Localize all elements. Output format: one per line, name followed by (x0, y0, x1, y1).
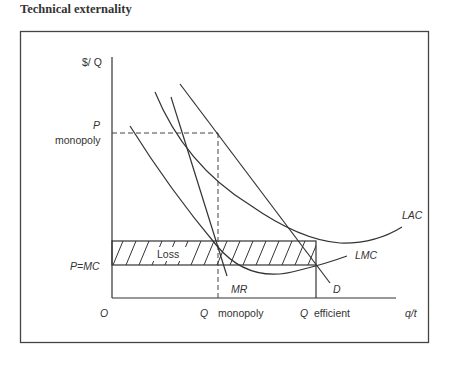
mr-label: MR (231, 283, 248, 295)
q-efficient-label-q: Q (300, 307, 308, 319)
p-monopoly-label-p: P (93, 119, 100, 131)
x-axis-label: q/t (405, 307, 418, 319)
loss-label: Loss (157, 248, 179, 260)
q-efficient-label-text: efficient (314, 307, 350, 319)
q-monopoly-label-q: Q (200, 307, 208, 319)
lac-curve (155, 92, 402, 243)
lac-label: LAC (402, 209, 423, 221)
loss-area (112, 241, 316, 265)
p-monopoly-label-text: monopoly (55, 134, 101, 146)
lmc-label: LMC (355, 249, 378, 261)
y-axis-label: $/ Q (82, 56, 102, 68)
technical-externality-diagram: $/ Q P monopoly P=MC Loss MR D LAC LMC O… (0, 0, 450, 369)
q-monopoly-label-text: monopoly (218, 307, 264, 319)
origin-label: O (100, 307, 108, 319)
d-label: D (333, 283, 341, 295)
p-mc-label: P=MC (70, 260, 100, 272)
